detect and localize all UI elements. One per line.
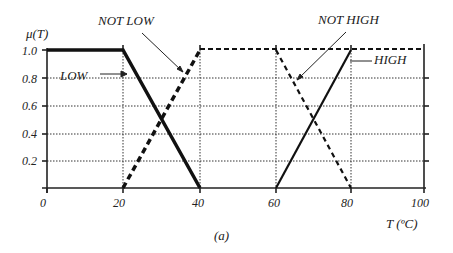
y-axis-title: μ(T) xyxy=(25,26,48,41)
membership-chart: μ(T) 1.0 0.8 0.6 0.4 0.2 0 20 40 60 80 1… xyxy=(0,0,453,253)
axes xyxy=(42,44,429,193)
label-low: LOW xyxy=(59,68,89,83)
x-axis-title: T (ºC) xyxy=(386,216,418,231)
x-tick-20: 20 xyxy=(113,196,125,210)
y-tick-1.0: 1.0 xyxy=(22,44,37,58)
x-tick-60: 60 xyxy=(268,196,280,210)
x-tick-40: 40 xyxy=(192,196,204,210)
label-not-high: NOT HIGH xyxy=(317,12,379,27)
annotation-arrows xyxy=(100,32,372,80)
y-tick-0.2: 0.2 xyxy=(22,154,37,168)
y-tick-0.8: 0.8 xyxy=(22,72,37,86)
y-tick-0.4: 0.4 xyxy=(22,127,37,141)
label-not-low: NOT LOW xyxy=(97,13,155,28)
series-high xyxy=(276,50,351,188)
label-high: HIGH xyxy=(373,52,407,67)
x-tick-80: 80 xyxy=(341,196,353,210)
y-tick-0.6: 0.6 xyxy=(22,99,37,113)
caption: (a) xyxy=(214,228,229,243)
gridlines xyxy=(47,50,424,188)
x-tick-0: 0 xyxy=(40,196,46,210)
x-tick-100: 100 xyxy=(411,196,429,210)
